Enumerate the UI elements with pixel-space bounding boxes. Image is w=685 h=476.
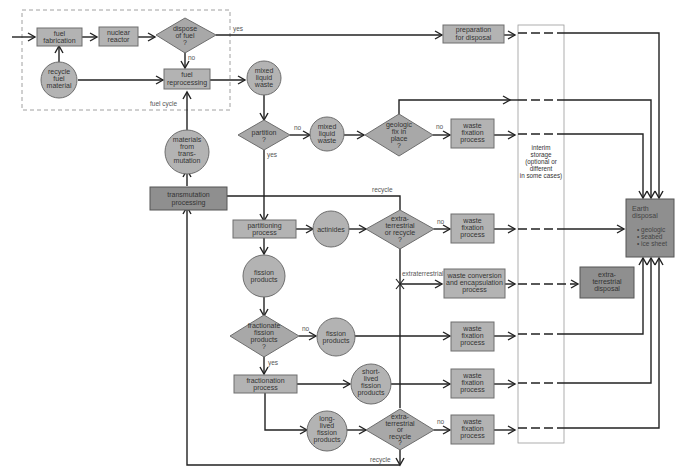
svg-text:fractionation: fractionation	[246, 377, 284, 384]
svg-text:or: or	[397, 426, 404, 433]
svg-text:waste conversion: waste conversion	[446, 272, 501, 279]
svg-text:waste: waste	[462, 418, 481, 425]
no-label: no	[436, 123, 444, 130]
svg-text:process: process	[252, 229, 277, 237]
svg-text:lived: lived	[320, 422, 335, 429]
svg-text:waste: waste	[462, 325, 481, 332]
recycle-label: recycle	[370, 456, 391, 464]
svg-text:waste: waste	[462, 122, 481, 129]
yes-label: yes	[268, 359, 279, 367]
geologic-fix-decision: geologic fix in place ?	[365, 114, 433, 156]
fractionation-process-node: fractionation process	[234, 375, 297, 393]
fission-products-node: fission products	[243, 255, 285, 297]
svg-text:materials: materials	[173, 136, 202, 143]
actinides-node: actinides	[313, 211, 349, 247]
nuclear-reactor-node: nuclear reactor	[99, 27, 138, 46]
dispose-of-fuel-decision: dispose of fuel ?	[156, 18, 216, 53]
extraterrestrial-or-recycle-decision: extra- terrestrial or recycle ?	[366, 210, 434, 249]
svg-text:products: products	[314, 436, 341, 444]
svg-text:of fuel: of fuel	[175, 32, 195, 39]
svg-text:products: products	[323, 337, 350, 345]
fission-products-node: fission products	[317, 318, 355, 356]
no-label: no	[437, 218, 445, 225]
yes-label: yes	[267, 151, 278, 159]
recycle-fuel-material-node: recycle fuel material	[41, 62, 77, 98]
waste-fixation-node: waste fixation process	[451, 119, 494, 148]
nuclear-waste-flow-diagram: fuel cycle	[0, 0, 685, 476]
extraterrestrial-or-recycle-decision: extra- terrestrial or recycle ?	[366, 409, 434, 450]
svg-text:?: ?	[262, 136, 266, 143]
extraterrestrial-disposal-node: extra- terrestrial disposal	[580, 267, 634, 298]
svg-text:nuclear: nuclear	[107, 29, 131, 36]
svg-text:transmutation: transmutation	[167, 191, 210, 198]
svg-text:reprocessing: reprocessing	[167, 79, 207, 87]
svg-text:mixed: mixed	[255, 67, 274, 74]
no-label: no	[302, 325, 310, 332]
waste-fixation-node: waste fixation process	[451, 322, 494, 351]
svg-text:process: process	[462, 286, 487, 294]
yes-label: yes	[233, 25, 244, 33]
fuel-cycle-label: fuel cycle	[150, 100, 177, 108]
svg-text:extra-: extra-	[391, 215, 410, 222]
svg-text:?: ?	[183, 39, 187, 46]
svg-text:waste: waste	[317, 137, 336, 144]
svg-text:preparation: preparation	[456, 26, 492, 34]
fractionate-fission-products-decision: fractionate fission products ?	[230, 315, 299, 357]
mixed-liquid-waste-node: mixed liquid waste	[310, 117, 344, 151]
transmutation-processing-node: transmutation processing	[150, 187, 227, 210]
svg-text:from: from	[180, 143, 194, 150]
svg-text:Earth: Earth	[632, 205, 649, 212]
svg-text:fixation: fixation	[461, 425, 483, 432]
svg-text:process: process	[460, 432, 485, 440]
no-label: no	[437, 418, 445, 425]
svg-text:extra-: extra-	[391, 413, 410, 420]
no-label: no	[294, 124, 302, 131]
svg-text:process: process	[460, 339, 485, 347]
svg-text:fission: fission	[326, 330, 346, 337]
fuel-fabrication-node: fuel fabrication	[37, 28, 82, 46]
waste-fixation-node: waste fixation process	[451, 214, 494, 243]
recycle-label: recycle	[372, 186, 393, 194]
svg-text:in some cases): in some cases)	[520, 172, 562, 180]
svg-text:fission: fission	[254, 269, 274, 276]
svg-text:fission: fission	[317, 429, 337, 436]
extraterrestrial-label: extraterrestrial	[402, 270, 444, 277]
partitioning-process-node: partitioning process	[233, 220, 296, 238]
svg-text:products: products	[358, 389, 385, 397]
mixed-liquid-waste-node: mixed liquid waste	[247, 61, 281, 95]
long-lived-fission-products-node: long- lived fission products	[307, 411, 347, 451]
svg-text:?: ?	[262, 343, 266, 350]
svg-text:fuel: fuel	[53, 75, 65, 82]
svg-text:disposal: disposal	[594, 285, 620, 293]
svg-text:for disposal: for disposal	[456, 34, 492, 42]
svg-text:short-: short-	[362, 368, 381, 375]
svg-text:?: ?	[398, 439, 402, 446]
svg-text:trans-: trans-	[178, 150, 197, 157]
waste-fixation-node: waste fixation process	[451, 369, 494, 398]
svg-text:waste: waste	[254, 81, 273, 88]
svg-text:process: process	[253, 384, 278, 392]
svg-text:terrestrial: terrestrial	[592, 278, 622, 285]
svg-text:process: process	[460, 136, 485, 144]
svg-text:fission: fission	[254, 329, 274, 336]
svg-text:fixation: fixation	[461, 224, 483, 231]
svg-text:fabrication: fabrication	[43, 37, 75, 44]
svg-text:waste: waste	[462, 217, 481, 224]
svg-text:extra-: extra-	[598, 271, 617, 278]
svg-text:fixation: fixation	[461, 332, 483, 339]
svg-text:fractionate: fractionate	[248, 322, 281, 329]
no-label: no	[188, 54, 196, 61]
svg-text:interim: interim	[532, 144, 551, 151]
svg-text:process: process	[460, 386, 485, 394]
short-lived-fission-products-node: short- lived fission products	[351, 364, 391, 404]
svg-text:process: process	[460, 231, 485, 239]
svg-text:mixed: mixed	[318, 123, 337, 130]
svg-text:terrestrial: terrestrial	[385, 222, 415, 229]
svg-text:fixation: fixation	[461, 129, 483, 136]
earth-disposal-node: Earth disposal • geologic • seabed • ice…	[626, 199, 674, 257]
svg-text:actinides: actinides	[317, 226, 345, 233]
waste-fixation-node: waste fixation process	[451, 415, 494, 444]
svg-text:fixation: fixation	[461, 379, 483, 386]
svg-text:• seabed: • seabed	[637, 233, 663, 240]
svg-text:• ice sheet: • ice sheet	[637, 240, 667, 247]
